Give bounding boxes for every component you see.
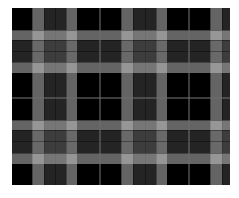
thin-horizontal-line (12, 97, 230, 99)
horizontal-stripe-dark (12, 130, 230, 141)
plaid-pattern (12, 8, 230, 185)
horizontal-stripe-light (12, 30, 230, 40)
horizontal-stripe-dark (12, 51, 230, 62)
horizontal-stripe-light (12, 120, 230, 130)
horizontal-stripe-dark (12, 141, 230, 153)
horizontal-stripe-dark (12, 40, 230, 51)
horizontal-stripe-light (12, 62, 230, 73)
horizontal-stripe-light (12, 153, 230, 164)
